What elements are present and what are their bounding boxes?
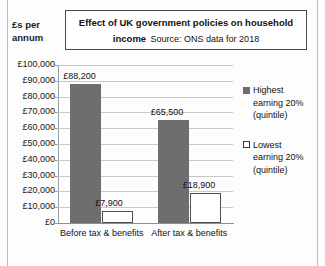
chart-source: Source: ONS data for 2018: [151, 34, 260, 44]
data-label: £18,900: [183, 180, 216, 190]
y-axis-tick-label: £60,000: [3, 122, 55, 132]
data-label: £65,500: [151, 107, 184, 117]
gridline: [58, 81, 233, 82]
y-axis-tick-label: £40,000: [3, 154, 55, 164]
y-axis-tick: [54, 207, 58, 208]
y-axis-tick: [54, 97, 58, 98]
data-label: £88,200: [63, 71, 96, 81]
y-axis-tick-label: £80,000: [3, 91, 55, 101]
legend-label: Lowestearning 20%(quintile): [253, 139, 304, 177]
y-axis-tick: [54, 176, 58, 177]
bar-lowest-1: [190, 193, 221, 223]
legend-item-highest[interactable]: Highestearning 20%(quintile): [243, 84, 321, 122]
y-axis-tick-label: £90,000: [3, 75, 55, 85]
y-axis-tick: [54, 144, 58, 145]
y-axis-tick-label: £0: [3, 217, 55, 227]
y-axis-tick-label: £70,000: [3, 106, 55, 116]
y-axis-title: £s per annum: [12, 18, 64, 44]
y-axis-tick-label: £10,000: [3, 201, 55, 211]
x-axis-category-label: After tax & benefits: [146, 228, 234, 238]
plot-area: £88,200£7,900£65,500£18,900: [58, 65, 233, 223]
chart-figure: £s per annum Effect of UK government pol…: [0, 0, 325, 266]
y-axis-title-line1: £s per: [12, 18, 64, 31]
x-axis-line: [58, 223, 234, 224]
legend-swatch-icon: [243, 87, 250, 94]
y-axis-tick: [54, 65, 58, 66]
y-axis-tick-label: £50,000: [3, 138, 55, 148]
gridline: [58, 65, 233, 66]
x-axis-category-label: Before tax & benefits: [58, 228, 146, 238]
y-axis-tick: [54, 81, 58, 82]
y-axis-tick: [54, 128, 58, 129]
y-axis-tick: [54, 112, 58, 113]
bar-lowest-0: [102, 211, 133, 223]
y-axis-tick: [54, 160, 58, 161]
legend-label: Highestearning 20%(quintile): [253, 84, 304, 122]
y-axis-tick-label: £20,000: [3, 185, 55, 195]
y-axis-tick-label: £30,000: [3, 170, 55, 180]
y-axis-tick: [54, 191, 58, 192]
legend-swatch-icon: [243, 141, 250, 148]
bar-highest-1: [158, 120, 189, 223]
y-axis-tick-label: £100,000: [3, 59, 55, 69]
data-label: £7,900: [95, 198, 123, 208]
chart-legend: Highestearning 20%(quintile)Lowestearnin…: [243, 84, 321, 193]
x-axis-category-labels: Before tax & benefitsAfter tax & benefit…: [58, 228, 236, 244]
y-axis-tick: [54, 223, 58, 224]
legend-item-lowest[interactable]: Lowestearning 20%(quintile): [243, 139, 321, 177]
y-axis-tick-labels: £100,000£90,000£80,000£70,000£60,000£50,…: [0, 65, 55, 224]
chart-title-box: Effect of UK government policies on hous…: [65, 10, 307, 50]
y-axis-title-line2: annum: [12, 31, 64, 44]
